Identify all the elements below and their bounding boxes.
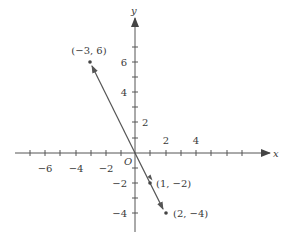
point-marker (164, 211, 168, 215)
point-marker (148, 181, 152, 185)
point-marker (88, 60, 92, 64)
x-axis-label: x (273, 148, 279, 159)
point-label: (1, −2) (156, 178, 191, 189)
x-tick-label: 4 (193, 135, 199, 146)
y-tick-label: −2 (112, 178, 127, 189)
y-tick-label: 4 (121, 87, 127, 98)
y-axis-label: y (130, 5, 137, 16)
point-label: (−3, 6) (71, 45, 106, 56)
x-tick-label: 2 (163, 135, 169, 146)
y-tick-label: 2 (142, 117, 148, 128)
point-label: (2, −4) (173, 208, 208, 219)
x-axis (15, 150, 270, 156)
x-tick-label: −4 (69, 163, 84, 174)
x-tick-label: −2 (99, 163, 114, 174)
y-axis (132, 18, 138, 232)
x-tick-label: −6 (38, 163, 53, 174)
line-y-equals-minus-2x (92, 66, 163, 209)
coordinate-plane: x y O −6 −4 −2 2 4 6 4 2 −2 −4 (−3, 6) (… (0, 0, 289, 247)
origin-label: O (124, 156, 132, 167)
y-tick-label: 6 (121, 57, 127, 68)
y-tick-label: −4 (112, 208, 127, 219)
